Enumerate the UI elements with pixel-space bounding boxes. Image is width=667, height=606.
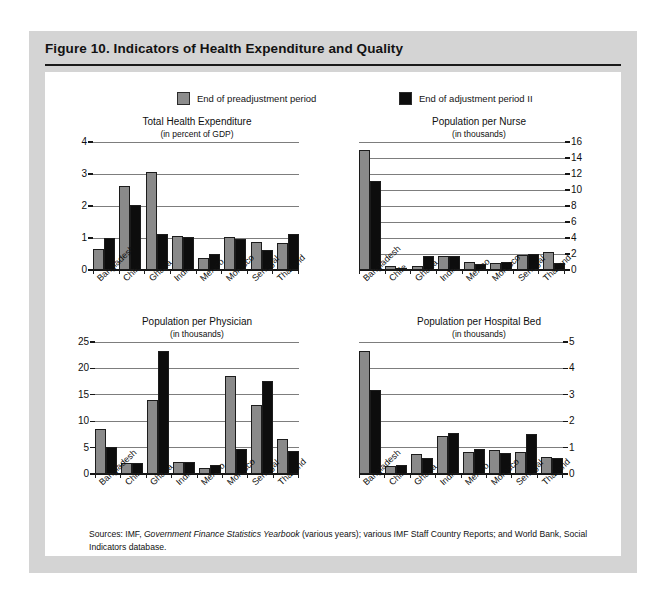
x-axis-tick-mark bbox=[410, 474, 411, 478]
y-axis-tick-label: 5 bbox=[83, 443, 89, 453]
x-axis-tick-mark bbox=[511, 474, 512, 478]
bar-group bbox=[93, 142, 115, 270]
y-axis-tick-label: 1 bbox=[569, 443, 575, 453]
bar-group bbox=[251, 142, 273, 270]
bar-group bbox=[464, 142, 486, 270]
x-axis-tick-mark bbox=[486, 474, 487, 478]
plot-area: 0510152025BangladeshChileGhanaIndiaMexic… bbox=[95, 342, 299, 474]
y-axis-tick-label: 0 bbox=[571, 265, 577, 275]
title-divider bbox=[45, 64, 621, 66]
chart-total-health-expenditure: Total Health Expenditure (in percent of … bbox=[55, 116, 339, 316]
chart-population-per-hospital-bed: Population per Hospital Bed (in thousand… bbox=[337, 316, 621, 522]
sources-italic-title: Government Finance Statistics Yearbook bbox=[144, 529, 300, 539]
legend-swatch-black-icon bbox=[399, 92, 412, 105]
x-axis-tick-mark bbox=[384, 474, 385, 478]
bar-group bbox=[515, 342, 537, 474]
figure-frame: Figure 10. Indicators of Health Expendit… bbox=[29, 31, 637, 573]
bar-group bbox=[95, 342, 117, 474]
chart-population-per-physician: Population per Physician (in thousands) … bbox=[55, 316, 339, 522]
chart-subtitle: (in thousands) bbox=[337, 329, 621, 339]
bar-group bbox=[147, 342, 169, 474]
x-axis-tick-mark bbox=[538, 270, 539, 274]
bar-group bbox=[437, 342, 459, 474]
bar-group bbox=[490, 142, 512, 270]
y-axis-tick-label: 5 bbox=[569, 337, 575, 347]
bar bbox=[95, 429, 106, 474]
y-axis-tick-label: 4 bbox=[571, 233, 577, 243]
bar-group bbox=[172, 142, 194, 270]
y-axis-tick-label: 3 bbox=[81, 169, 87, 179]
bar-group bbox=[359, 142, 381, 270]
y-axis-tick-mark bbox=[565, 189, 570, 190]
chart-title: Total Health Expenditure bbox=[55, 116, 339, 127]
x-axis-tick-mark bbox=[93, 270, 94, 274]
bar bbox=[146, 172, 157, 270]
y-axis-tick-label: 0 bbox=[81, 265, 87, 275]
y-axis-tick-mark bbox=[565, 141, 570, 142]
bar bbox=[370, 181, 381, 270]
y-axis-tick-label: 1 bbox=[81, 233, 87, 243]
y-axis-tick-label: 10 bbox=[78, 416, 89, 426]
x-axis-tick-mark bbox=[272, 270, 273, 274]
chart-title: Population per Physician bbox=[55, 316, 339, 327]
chart-panel: End of preadjustment period End of adjus… bbox=[45, 72, 621, 556]
bar-group bbox=[225, 342, 247, 474]
x-axis-tick-mark bbox=[435, 474, 436, 478]
x-axis-tick-mark bbox=[385, 270, 386, 274]
y-axis-tick-label: 4 bbox=[81, 137, 87, 147]
bar-group bbox=[277, 342, 299, 474]
y-axis-tick-mark bbox=[563, 394, 568, 395]
chart-subtitle: (in percent of GDP) bbox=[55, 129, 339, 139]
y-axis-tick-mark bbox=[565, 221, 570, 222]
y-axis-tick-label: 0 bbox=[83, 469, 89, 479]
y-axis-tick-label: 4 bbox=[569, 363, 575, 373]
x-axis-tick-mark bbox=[487, 270, 488, 274]
x-axis-tick-mark bbox=[170, 270, 171, 274]
bar-group bbox=[224, 142, 246, 270]
legend-swatch-gray-icon bbox=[177, 92, 190, 105]
x-axis-tick-mark bbox=[144, 270, 145, 274]
chart-population-per-nurse: Population per Nurse (in thousands) 0246… bbox=[337, 116, 621, 316]
x-axis-tick-mark bbox=[537, 474, 538, 478]
y-axis-tick-mark bbox=[563, 447, 568, 448]
x-axis-labels: BangladeshChileGhanaIndiaMexicoMoroccoSe… bbox=[359, 480, 563, 526]
legend-label-adjustment: End of adjustment period II bbox=[419, 93, 533, 104]
legend-label-preadjustment: End of preadjustment period bbox=[197, 93, 316, 104]
x-axis-tick-mark bbox=[120, 474, 121, 478]
x-axis-tick-mark bbox=[562, 474, 563, 478]
y-axis-tick-mark bbox=[565, 157, 570, 158]
bar-group bbox=[411, 342, 433, 474]
x-axis-tick-mark bbox=[298, 270, 299, 274]
plot-area: 01234BangladeshChileGhanaIndiaMexicoMoro… bbox=[93, 142, 299, 270]
bar-group bbox=[173, 342, 195, 474]
bar bbox=[158, 351, 169, 474]
x-axis-tick-mark bbox=[513, 270, 514, 274]
y-axis-tick-label: 12 bbox=[571, 169, 582, 179]
bar-group bbox=[543, 142, 565, 270]
plot-area: 012345BangladeshChileGhanaIndiaMexicoMor… bbox=[359, 342, 563, 474]
bar-group bbox=[541, 342, 563, 474]
chart-title: Population per Hospital Bed bbox=[337, 316, 621, 327]
chart-title: Population per Nurse bbox=[337, 116, 621, 127]
y-axis-tick-label: 6 bbox=[571, 217, 577, 227]
plot-area: 0246810121416BangladeshChileGhanaIndiaMe… bbox=[359, 142, 565, 270]
x-axis-tick-mark bbox=[410, 270, 411, 274]
bar-group bbox=[277, 142, 299, 270]
bar-group bbox=[463, 342, 485, 474]
x-axis-tick-mark bbox=[359, 270, 360, 274]
x-axis-tick-mark bbox=[197, 474, 198, 478]
bar-group bbox=[489, 342, 511, 474]
y-axis-tick-mark bbox=[563, 421, 568, 422]
x-axis-tick-mark bbox=[247, 474, 248, 478]
x-axis-tick-mark bbox=[222, 474, 223, 478]
x-axis-tick-mark bbox=[436, 270, 437, 274]
bar-group bbox=[359, 342, 381, 474]
bar-group bbox=[517, 142, 539, 270]
bar bbox=[93, 249, 104, 270]
x-axis-tick-mark bbox=[95, 474, 96, 478]
y-axis-tick-label: 25 bbox=[78, 337, 89, 347]
x-axis-tick-mark bbox=[247, 270, 248, 274]
y-axis-tick-label: 14 bbox=[571, 153, 582, 163]
bar-group bbox=[438, 142, 460, 270]
x-axis-tick-mark bbox=[273, 474, 274, 478]
